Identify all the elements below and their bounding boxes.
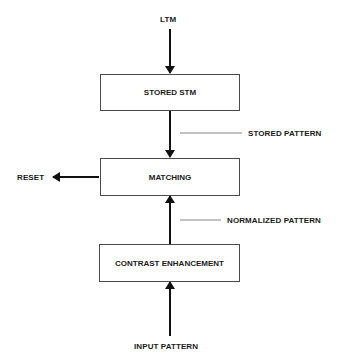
ltm-label: LTM [160, 15, 176, 24]
normalized-pattern-label: NORMALIZED PATTERN [227, 216, 321, 225]
stored-stm-box: STORED STM [100, 74, 240, 111]
contrast-enhancement-label: CONTRAST ENHANCEMENT [115, 259, 224, 268]
contrast-enhancement-box: CONTRAST ENHANCEMENT [99, 244, 240, 282]
stored-stm-label: STORED STM [144, 88, 196, 97]
reset-label: RESET [17, 173, 44, 182]
stored-pattern-label: STORED PATTERN [248, 129, 321, 138]
matching-label: MATCHING [149, 173, 192, 182]
input-pattern-label: INPUT PATTERN [134, 342, 198, 351]
matching-box: MATCHING [100, 158, 240, 196]
